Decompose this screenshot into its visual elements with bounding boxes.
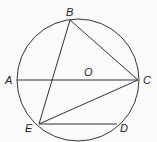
label-b: B: [66, 6, 73, 18]
label-c: C: [143, 74, 151, 86]
segment-BC: [70, 20, 138, 80]
label-e: E: [25, 122, 33, 134]
label-d: D: [120, 122, 128, 134]
segment-BE: [39, 20, 70, 124]
segment-EC: [39, 80, 138, 124]
label-o-center: O: [84, 66, 93, 78]
label-a: A: [4, 74, 12, 86]
circle-geometry-diagram: A B C D E O: [0, 0, 157, 142]
